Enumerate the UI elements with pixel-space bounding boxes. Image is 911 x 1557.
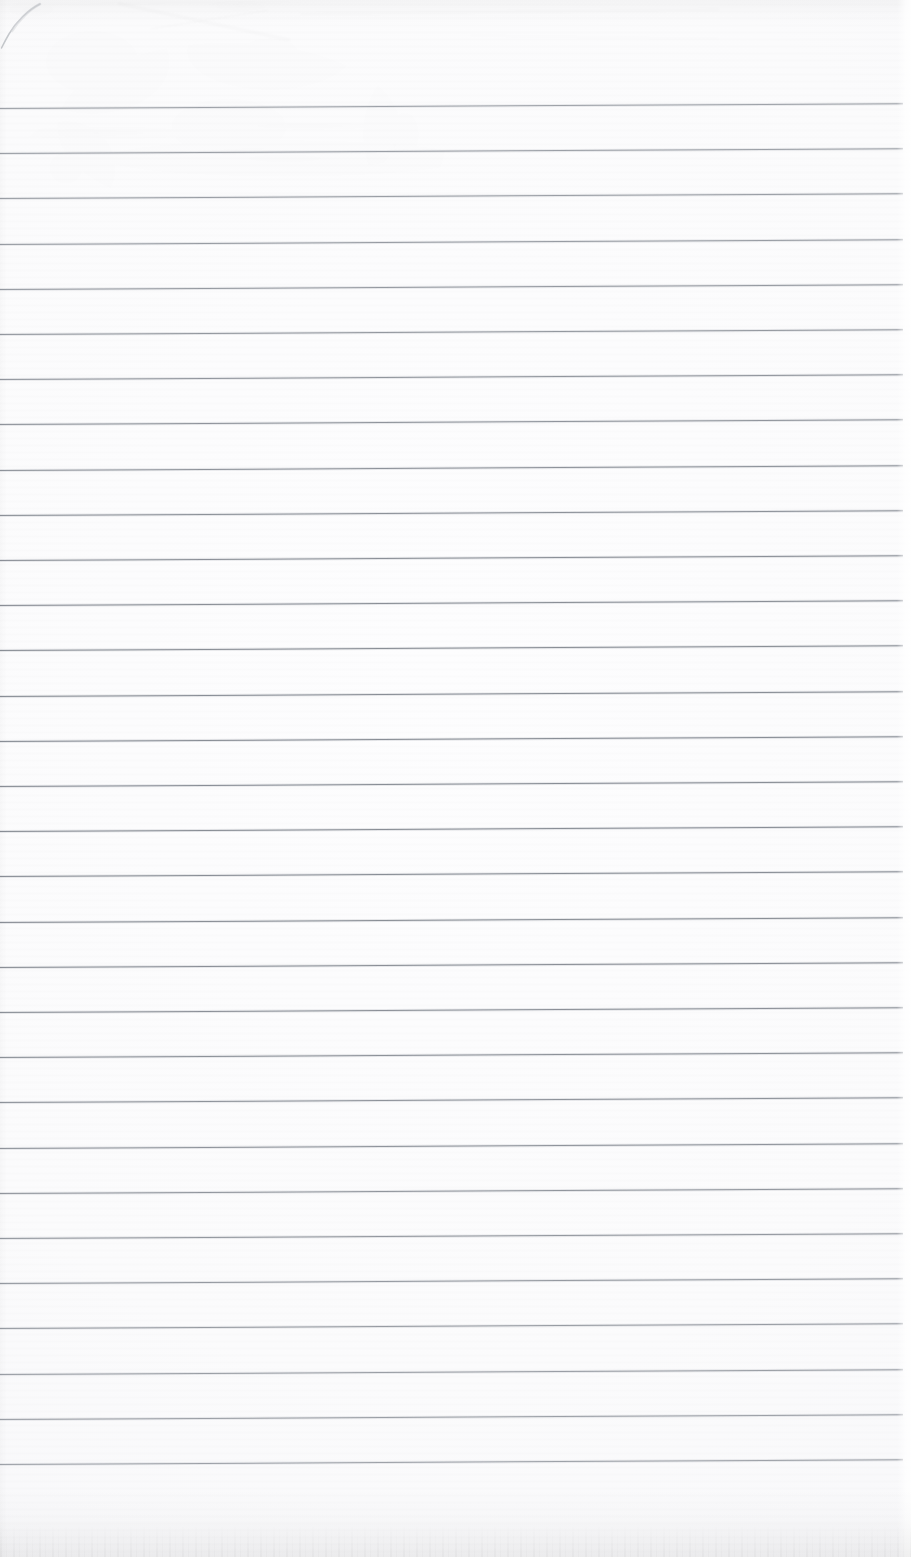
ruled-line (0, 103, 903, 109)
ruled-line (0, 736, 903, 742)
ruled-line (0, 1459, 903, 1465)
ruled-line (0, 962, 903, 968)
top-edge-shadow (0, 0, 911, 26)
ruled-line (0, 872, 903, 878)
ruled-line (0, 917, 903, 923)
ruled-line (0, 826, 903, 832)
ruled-line (0, 329, 903, 335)
ruled-line (0, 646, 903, 652)
ruled-line (0, 691, 903, 697)
ruled-line (0, 1052, 903, 1058)
ruled-line (0, 420, 903, 426)
ruled-line (0, 555, 903, 561)
ruled-line (0, 1414, 903, 1420)
ruled-lines-group (0, 0, 911, 1557)
bottom-edge-speckle (0, 1523, 911, 1557)
ruled-line (0, 284, 903, 290)
ruled-line (0, 781, 903, 787)
scanned-page (0, 0, 911, 1557)
ruled-line (0, 1098, 903, 1104)
ruled-line (0, 600, 903, 606)
ruled-line (0, 148, 903, 154)
ruled-line (0, 239, 903, 245)
ruled-line (0, 1188, 903, 1194)
left-edge-shadow (0, 0, 7, 1557)
right-margin-highlight (897, 0, 911, 1557)
ruled-line (0, 1233, 903, 1239)
ruled-line (0, 1324, 903, 1330)
ruled-line (0, 510, 903, 516)
ruled-line (0, 1143, 903, 1149)
ruled-line (0, 1007, 903, 1013)
ruled-line (0, 465, 903, 471)
ruled-line (0, 194, 903, 200)
ruled-line (0, 1369, 903, 1375)
ruled-line (0, 1278, 903, 1284)
ruled-line (0, 374, 903, 380)
